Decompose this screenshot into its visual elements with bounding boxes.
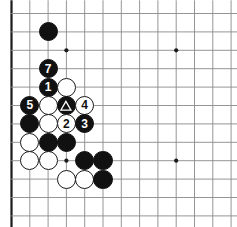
black-stone bbox=[75, 151, 94, 170]
move-stone-4: 4 bbox=[75, 96, 94, 115]
stone-move-number: 1 bbox=[45, 81, 52, 93]
triangle-marked-stone bbox=[57, 96, 76, 115]
go-board-diagram: 715423 bbox=[0, 0, 237, 227]
white-stone bbox=[75, 170, 94, 189]
black-stone bbox=[39, 22, 58, 41]
white-stone bbox=[57, 78, 76, 97]
stone-move-number: 5 bbox=[26, 99, 33, 111]
black-stone bbox=[57, 133, 76, 152]
move-stone-2: 2 bbox=[57, 114, 76, 133]
move-stone-7: 7 bbox=[39, 59, 58, 78]
stone-move-number: 3 bbox=[81, 118, 88, 130]
stone-move-number: 7 bbox=[45, 63, 52, 75]
black-stone bbox=[39, 133, 58, 152]
white-stone bbox=[20, 133, 39, 152]
move-stone-3: 3 bbox=[75, 114, 94, 133]
white-stone bbox=[20, 151, 39, 170]
white-stone bbox=[39, 114, 58, 133]
stone-layer: 715423 bbox=[0, 0, 237, 227]
white-stone bbox=[39, 96, 58, 115]
move-stone-5: 5 bbox=[20, 96, 39, 115]
black-stone bbox=[93, 151, 112, 170]
stone-move-number: 4 bbox=[81, 99, 88, 111]
white-stone bbox=[57, 170, 76, 189]
stone-move-number: 2 bbox=[63, 118, 70, 130]
move-stone-1: 1 bbox=[39, 78, 58, 97]
black-stone bbox=[93, 170, 112, 189]
white-stone bbox=[39, 151, 58, 170]
triangle-mark-icon bbox=[59, 99, 73, 113]
black-stone bbox=[20, 114, 39, 133]
